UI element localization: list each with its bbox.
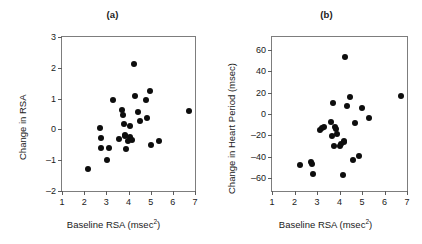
panel-b-y-tick-label: 60	[256, 45, 266, 55]
panel-a-y-axis-title: Change in RSA	[17, 95, 28, 160]
panel-a-plot-area: –2–101231234567	[61, 36, 196, 192]
panel-b-data-point	[334, 131, 340, 137]
panel-b-y-tick	[268, 114, 272, 115]
panel-b: (b) –60–40–2002040601234567 Baseline RSA…	[211, 0, 422, 244]
panel-a-x-tick	[62, 191, 63, 195]
panel-b-data-point	[310, 171, 316, 177]
panel-b-data-point	[356, 153, 362, 159]
panel-b-y-tick	[268, 135, 272, 136]
panel-b-y-tick	[268, 93, 272, 94]
panel-b-x-tick-label: 5	[359, 197, 364, 207]
panel-a-y-tick-label: 3	[51, 32, 56, 42]
panel-b-data-point	[359, 105, 365, 111]
panel-a-data-point	[156, 138, 162, 144]
panel-b-x-tick-label: 1	[269, 197, 274, 207]
panel-a-data-point	[127, 123, 133, 129]
panel-b-x-axis-title: Baseline RSA (msec2)	[211, 218, 422, 230]
panel-a-x-tick	[151, 191, 152, 195]
panel-a-data-point	[110, 97, 116, 103]
panel-a-x-tick-label: 2	[82, 197, 87, 207]
panel-a-x-axis-title-tail: )	[157, 219, 160, 230]
panel-a-y-tick-label: –2	[46, 186, 56, 196]
panel-b-y-tick-label: 20	[256, 88, 266, 98]
panel-a-data-point	[98, 135, 104, 141]
panel-a-title: (a)	[0, 9, 211, 20]
panel-a-y-tick-label: –1	[46, 155, 56, 165]
panel-b-x-axis-title-text: Baseline RSA (msec	[279, 219, 366, 230]
panel-b-y-tick-label: –20	[251, 130, 266, 140]
panel-a-data-point	[147, 88, 153, 94]
panel-b-x-tick-label: 2	[292, 197, 297, 207]
panel-b-data-point	[366, 115, 372, 121]
panel-b-data-point	[398, 93, 404, 99]
panel-a-x-tick	[84, 191, 85, 195]
panel-a-x-tick	[173, 191, 174, 195]
panel-b-x-axis-title-tail: )	[369, 219, 372, 230]
panel-a-x-tick-label: 4	[126, 197, 131, 207]
panel-a-y-tick-label: 1	[51, 94, 56, 104]
panel-a-x-tick	[106, 191, 107, 195]
panel-b-x-tick	[272, 191, 273, 195]
panel-b-data-point	[340, 172, 346, 178]
panel-a-x-axis-title: Baseline RSA (msec2)	[0, 218, 211, 230]
panel-a-data-point	[132, 93, 138, 99]
panel-b-title: (b)	[211, 9, 422, 20]
panel-a-y-tick	[58, 68, 62, 69]
panel-a-x-tick-label: 6	[170, 197, 175, 207]
panel-b-data-point	[330, 100, 336, 106]
panel-b-y-axis-title: Change in Heart Period (msec)	[226, 63, 237, 194]
panel-a-x-tick-label: 3	[104, 197, 109, 207]
panel-b-y-tick-label: –40	[251, 152, 266, 162]
panel-a-data-point	[123, 146, 129, 152]
panel-b-data-point	[297, 162, 303, 168]
panel-b-data-point	[331, 143, 337, 149]
panel-b-x-tick	[340, 191, 341, 195]
panel-a-data-point	[120, 112, 126, 118]
panel-a-data-point	[148, 142, 154, 148]
panel-a-data-point	[131, 61, 137, 67]
panel-b-y-tick	[268, 157, 272, 158]
panel-b-data-point	[321, 124, 327, 130]
panel-a-y-tick-label: 2	[51, 63, 56, 73]
panel-a-data-point	[135, 109, 141, 115]
panel-a-x-axis-title-text: Baseline RSA (msec	[67, 219, 154, 230]
panel-b-y-tick	[268, 50, 272, 51]
panel-a-x-tick-label: 1	[59, 197, 64, 207]
panel-b-x-tick	[317, 191, 318, 195]
panel-a-y-tick	[58, 160, 62, 161]
panel-a-data-point	[104, 157, 110, 163]
panel-b-y-tick	[268, 178, 272, 179]
panel-a-x-tick	[195, 191, 196, 195]
panel-b-y-tick-label: –60	[251, 173, 266, 183]
panel-b-data-point	[344, 103, 350, 109]
panel-b-x-tick	[385, 191, 386, 195]
panel-a-data-point	[98, 145, 104, 151]
panel-a-y-tick	[58, 37, 62, 38]
panel-a-data-point	[106, 145, 112, 151]
panel-a-y-tick	[58, 99, 62, 100]
panel-b-x-tick-label: 4	[337, 197, 342, 207]
panel-b-x-tick-label: 6	[382, 197, 387, 207]
panel-b-data-point	[347, 94, 353, 100]
panel-a-y-tick	[58, 129, 62, 130]
panel-a-x-tick-label: 5	[148, 197, 153, 207]
panel-b-x-tick-label: 7	[404, 197, 409, 207]
panel-b-data-point	[342, 54, 348, 60]
panel-b-y-tick-label: 40	[256, 66, 266, 76]
panel-a-data-point	[97, 125, 103, 131]
panel-b-y-tick-label: 0	[261, 109, 266, 119]
panel-a-data-point	[129, 137, 135, 143]
panel-a-data-point	[144, 115, 150, 121]
panel-a-data-point	[85, 166, 91, 172]
panel-a-data-point	[143, 97, 149, 103]
panel-a-y-tick-label: 0	[51, 124, 56, 134]
panel-b-y-tick	[268, 71, 272, 72]
panel-a-x-tick-label: 7	[192, 197, 197, 207]
panel-b-data-point	[309, 161, 315, 167]
panel-b-data-point	[341, 139, 347, 145]
panel-b-data-point	[352, 120, 358, 126]
figure-scatter-panels: (a) –2–101231234567 Baseline RSA (msec2)…	[0, 0, 422, 244]
panel-b-plot-area: –60–40–2002040601234567	[271, 36, 408, 192]
panel-b-x-tick	[407, 191, 408, 195]
panel-b-x-tick-label: 3	[314, 197, 319, 207]
